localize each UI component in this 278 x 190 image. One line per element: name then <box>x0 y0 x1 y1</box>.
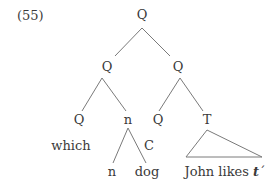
edge-leftq-right <box>102 78 126 111</box>
edge-root-right <box>142 28 170 56</box>
t-yield: John likes t´ <box>184 165 265 179</box>
edge-n-left <box>113 128 128 163</box>
edge-leftq-left <box>82 78 102 111</box>
leaf-dog: dog <box>135 165 159 179</box>
leaf-n: n <box>108 165 116 179</box>
label-c: C <box>144 139 154 153</box>
trace-prime: ´ <box>259 164 266 179</box>
t-yield-prefix: John likes <box>184 164 253 179</box>
node-left-q: Q <box>102 60 113 74</box>
node-left-q-right-n: n <box>124 113 132 127</box>
edge-root-left <box>115 28 142 56</box>
edge-rightq-left <box>159 78 180 111</box>
edge-rightq-right <box>180 78 203 111</box>
node-root-q: Q <box>137 8 148 22</box>
node-right-q: Q <box>173 60 184 74</box>
node-right-q-right-t: T <box>203 113 212 127</box>
t-triangle <box>186 130 262 157</box>
leaf-which: which <box>51 139 90 153</box>
syntax-tree-edges <box>0 0 278 190</box>
node-left-q-left-q: Q <box>74 113 85 127</box>
node-right-q-left-q: Q <box>153 113 164 127</box>
